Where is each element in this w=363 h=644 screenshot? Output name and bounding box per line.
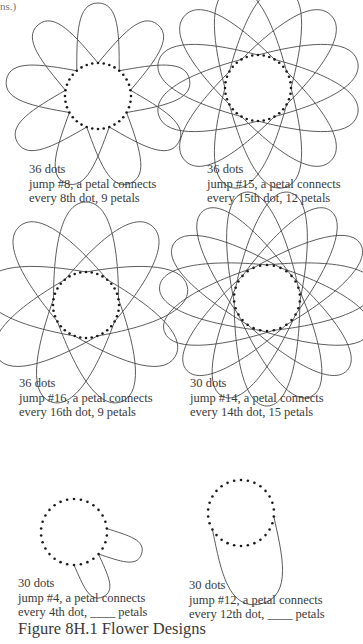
figure-title: Figure 8H.1 Flower Designs [18, 619, 206, 639]
dot-ring [207, 479, 275, 548]
design-caption: 30 dotsjump #12, a petal connectsevery 1… [189, 578, 325, 622]
caption-line: every 12th dot, ____ petals [189, 607, 325, 622]
caption-line: 30 dots [189, 578, 325, 593]
flower-diagram [0, 0, 363, 644]
caption-line: jump #12, a petal connects [189, 593, 325, 608]
